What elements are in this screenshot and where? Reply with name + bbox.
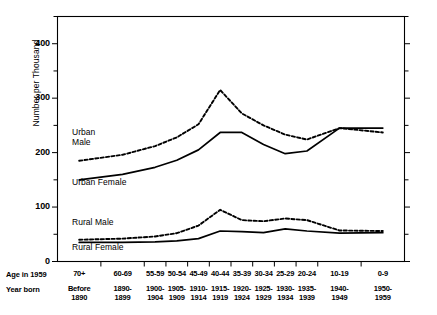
chart-figure: Number per Thousand 0100200300400 UrbanM… xyxy=(0,0,437,315)
x-tick-born-label-line2: 1959 xyxy=(375,293,391,302)
series-label-rural-female: Rural Female xyxy=(72,243,124,253)
series-lines xyxy=(79,90,383,242)
axis-row-header-age: Age in 1959 xyxy=(6,270,47,279)
series-label-line2: Male xyxy=(72,137,91,147)
axis-row-header-born: Year born xyxy=(6,285,40,294)
series-label-rural-male: Rural Male xyxy=(72,218,114,228)
series-label-urban-male: UrbanMale xyxy=(72,128,95,147)
x-tick-born-label-line2: 1890 xyxy=(71,293,87,302)
series-line-rural-female xyxy=(79,229,383,243)
series-line-rural-male xyxy=(79,210,383,240)
plot-area xyxy=(0,0,437,315)
x-tick-born-label-line2: 1939 xyxy=(299,293,315,302)
x-tick-born-label-line2: 1899 xyxy=(115,293,131,302)
x-tick-age-label: 0-9 xyxy=(358,270,408,279)
axis-ticks xyxy=(52,17,410,267)
series-line-urban-male xyxy=(79,90,383,161)
x-tick-born-label-line2: 1949 xyxy=(331,293,347,302)
x-tick-born-label: 1950-1959 xyxy=(358,285,408,302)
series-label-urban-female: Urban Female xyxy=(72,178,126,188)
